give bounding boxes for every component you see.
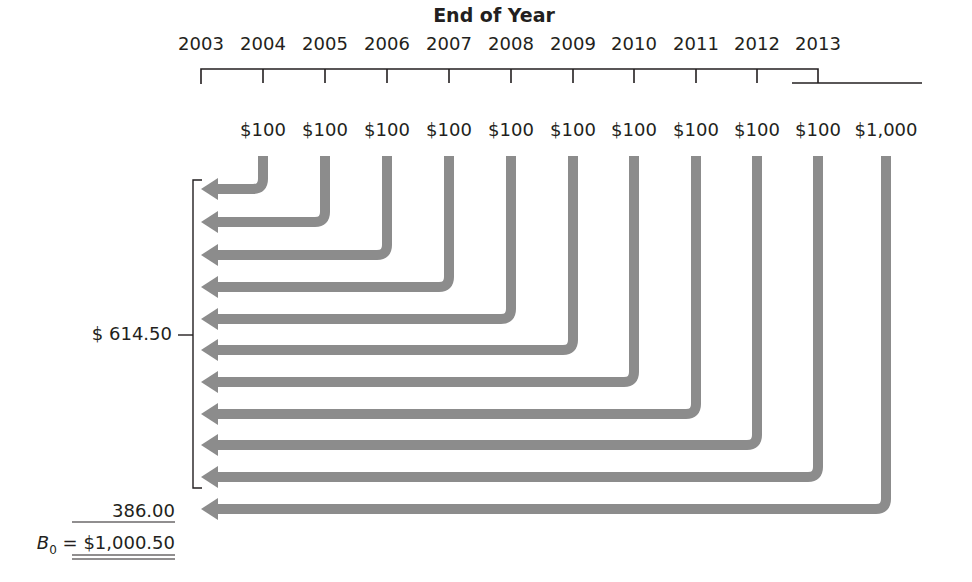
bond-value-row: B0 = $1,000.50 <box>30 532 175 553</box>
bond-value-subscript: 0 <box>49 543 57 557</box>
equals-sign: = <box>63 532 78 553</box>
bond-value-symbol: B <box>37 532 49 553</box>
coupon-discount-arrow <box>201 156 511 330</box>
timeline-ticks <box>263 69 757 83</box>
coupon-bracket <box>178 180 202 488</box>
cash-flow-diagram <box>0 0 972 582</box>
principal-discount-arrow <box>201 156 886 520</box>
coupon-discount-arrow <box>201 156 387 266</box>
bond-value: $1,000.50 <box>83 532 175 553</box>
coupons-present-value: $ 614.50 <box>60 323 172 344</box>
timeline-axis <box>201 69 922 84</box>
coupon-discount-arrow <box>201 156 263 200</box>
discount-arrows <box>201 156 886 520</box>
principal-present-value: 386.00 <box>60 500 175 521</box>
